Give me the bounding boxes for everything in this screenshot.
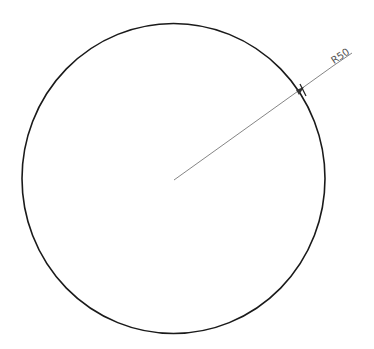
- circle-outline: [22, 24, 325, 334]
- radius-dimension-label: R50: [329, 46, 351, 66]
- cad-drawing: R50: [0, 0, 374, 349]
- radius-leader-line: [174, 66, 333, 180]
